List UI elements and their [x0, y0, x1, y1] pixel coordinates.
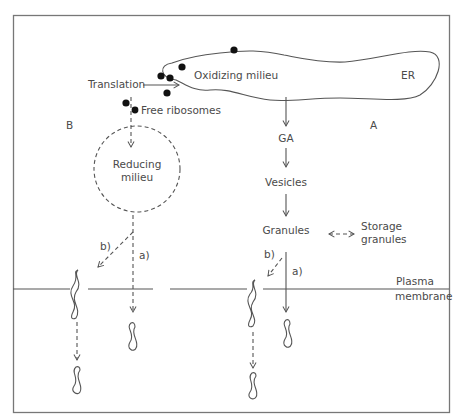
b-membrane-protein — [71, 270, 79, 319]
storage-granules-label-1: Storage — [361, 220, 402, 232]
a-released-protein — [249, 373, 257, 399]
storage-granules-label-2: granules — [361, 233, 407, 245]
region-b-label: B — [66, 119, 73, 131]
a-path-b-arrow — [268, 258, 282, 276]
b-secreted-protein — [129, 323, 137, 351]
reducing-milieu-label-1: Reducing — [113, 158, 162, 170]
free-ribosomes — [122, 99, 138, 113]
oxidizing-milieu-label: Oxidizing milieu — [194, 69, 278, 81]
a-path-a-label: a) — [292, 265, 303, 277]
granules-label: Granules — [262, 224, 309, 236]
a-secreted-protein — [284, 320, 292, 348]
er-label: ER — [401, 69, 415, 81]
translation-label: Translation — [87, 78, 145, 90]
vesicles-label: Vesicles — [265, 176, 307, 188]
secretion-pathway-diagram: Translation Oxidizing milieu ER Free rib… — [0, 0, 463, 418]
a-membrane-protein — [248, 280, 256, 327]
b-path-a-label: a) — [139, 249, 150, 261]
plasma-membrane-label-1: Plasma — [396, 275, 434, 287]
a-path-b-label: b) — [264, 248, 275, 260]
plasma-membrane-label-2: membrane — [395, 290, 452, 302]
free-ribosomes-label: Free ribosomes — [141, 104, 221, 116]
b-path-b-label: b) — [100, 240, 111, 252]
reducing-milieu-label-2: milieu — [121, 171, 153, 183]
region-a-label: A — [370, 119, 378, 131]
ga-label: GA — [278, 132, 294, 144]
b-released-protein — [73, 367, 81, 394]
